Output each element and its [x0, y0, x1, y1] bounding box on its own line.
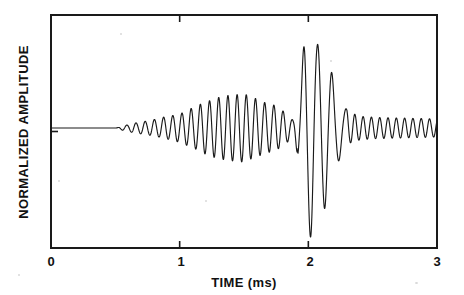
plot-svg: 0 1 2 3 TIME (ms) NORMALIZED AMPLITUDE [0, 0, 464, 295]
x-axis-title: TIME (ms) [211, 275, 277, 290]
waveform-figure: 0 1 2 3 TIME (ms) NORMALIZED AMPLITUDE [0, 0, 464, 295]
x-tick-label-2: 2 [306, 254, 313, 269]
x-tick-label-1: 1 [177, 254, 184, 269]
waveform-trace [51, 44, 437, 237]
y-axis-title: NORMALIZED AMPLITUDE [16, 45, 31, 219]
x-tick-label-3: 3 [433, 254, 440, 269]
x-tick-label-0: 0 [47, 254, 54, 269]
